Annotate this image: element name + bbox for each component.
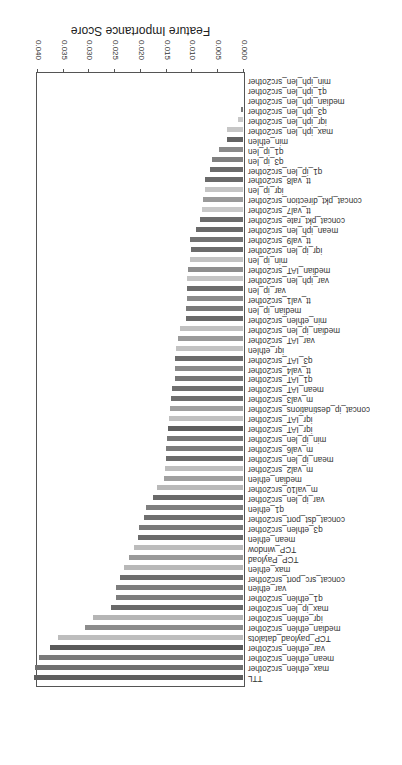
y-tick-label: iqr_ethlen_src2other [248,613,323,623]
bar [187,277,243,282]
y-tick-label: iqr_IAT_src2other [248,424,312,434]
bar [205,177,243,182]
bar [176,346,243,351]
y-tick-label: iqr_iph_len_src2other [248,116,327,126]
bar [164,476,243,481]
bar [129,555,243,560]
bar [191,247,243,252]
bar [188,267,243,272]
bar [175,376,243,381]
bar [219,147,243,152]
x-tick-mark [63,69,64,72]
bar [120,575,243,580]
y-tick-label: q3_iph_len_src2other [248,106,327,116]
bar [186,306,243,311]
bar [172,386,243,391]
bar [116,595,243,600]
bar [166,446,243,451]
y-tick-label: concat_pkt_direction_src2other [248,195,362,205]
y-tick-label: tt_val9_src2other [248,235,311,245]
y-tick-label: mean_ethlen [248,534,295,544]
y-tick-label: median_ip_len [248,305,301,315]
y-tick-label: mean_IAT_src2other [248,384,324,394]
bar [203,197,243,202]
y-tick-label: TCP_payload_datalots [248,633,331,643]
x-tick-label: 0.015 [163,40,172,60]
y-tick-label: q1_iph_len_src2other [248,86,327,96]
y-tick-label: m_val10_src2other [248,484,318,494]
bar [171,396,243,401]
bar [241,107,243,112]
y-tick-label: tt_val4_src2other [248,365,311,375]
y-tick-label: median_IAT_src2other [248,265,330,275]
y-tick-label: TCP_window [248,544,296,554]
y-tick-label: min_ip_len_src2other [248,434,326,444]
y-tick-label: var_IAT_src2other [248,335,315,345]
y-tick-label: mean_ip_len_src2other [248,454,334,464]
y-tick-label: concat_dst_port_src2other [248,514,345,524]
x-tick-mark [166,69,167,72]
bar [187,296,243,301]
bar [166,456,243,461]
y-tick-label: tt_val1_src2other [248,295,311,305]
y-tick-label: mean_ethlen_src2other [248,653,334,663]
y-tick-label: median_iph_len_src2other [248,96,345,106]
y-tick-label: q1_ip_len [248,146,284,156]
bar [165,466,243,471]
bar [238,117,243,122]
bar [196,227,243,232]
y-tick-label: concat_src_port_src2other [248,574,345,584]
y-tick-label: q3_ip_len [248,156,284,166]
y-tick-label: iqr_ethlen [248,345,284,355]
x-tick-label: 0.010 [189,40,198,60]
bar [157,485,243,490]
bar [111,605,243,610]
y-tick-label: iqr_ip_len_src2other [248,245,322,255]
y-tick-label: max_ip_len_src2other [248,603,329,613]
bar [202,207,243,212]
y-tick-label: TCP_Payload [248,554,299,564]
bar [93,615,243,620]
y-tick-label: min_ethlen_src2other [248,315,327,325]
y-tick-label: var_ethlen [248,583,286,593]
bar [58,635,243,640]
x-tick-label: 0.030 [86,40,95,60]
y-tick-label: m_val2_src2other [248,464,313,474]
bar [144,515,243,520]
bar [34,675,243,680]
bar [175,356,243,361]
x-tick-mark [140,69,141,72]
x-tick-mark [217,69,218,72]
y-tick-label: max_ethlen [248,564,290,574]
bar [170,406,243,411]
y-tick-label: TTL [248,673,263,683]
y-tick-label: var_iph_len_src2other [248,275,329,285]
y-tick-label: q3_IAT_src2other [248,355,312,365]
bar [205,187,243,192]
x-tick-mark [89,69,90,72]
y-tick-label: max_iph_len_src2other [248,126,333,136]
bar [168,426,243,431]
bar [190,257,243,262]
bar [180,326,243,331]
bar [146,505,243,510]
y-tick-label: q1_ethlen [248,504,284,514]
bar [210,167,243,172]
x-tick-label: 0.025 [111,40,120,60]
bar [153,495,243,500]
y-tick-label: iqr_IAT_src2other [248,414,312,424]
y-tick-label: q3_ethlen_src2other [248,524,323,534]
bar [227,137,243,142]
y-tick-label: min_ethlen [248,136,288,146]
bar [35,665,243,670]
y-tick-label: q1_ethlen_src2other [248,593,323,603]
bar [50,645,243,650]
y-tick-label: var_ethlen_src2other [248,643,325,653]
y-tick-label: median_ip_len_src2other [248,325,340,335]
bar [169,416,243,421]
bar [190,237,243,242]
y-tick-label: m_val3_src2other [248,394,313,404]
x-tick-label: 0.040 [34,40,43,60]
y-tick-label: max_ethlen_src2other [248,663,329,673]
bar [175,366,243,371]
